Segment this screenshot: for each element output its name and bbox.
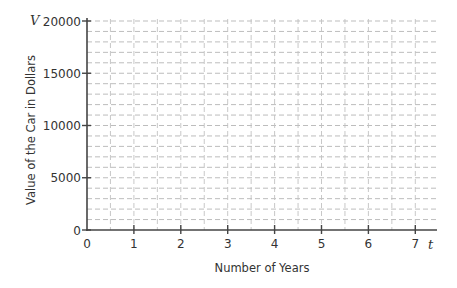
chart: 05000100001500020000 01234567 V t Number… xyxy=(0,0,457,288)
tick-marks xyxy=(82,21,415,234)
x-tick-label: 1 xyxy=(130,237,138,251)
x-variable-label: t xyxy=(428,237,434,252)
x-tick-label: 5 xyxy=(318,237,326,251)
x-axis-title: Number of Years xyxy=(215,261,310,275)
x-tick-label: 4 xyxy=(271,237,279,251)
y-tick-label: 5000 xyxy=(50,171,81,185)
y-tick-label: 0 xyxy=(73,224,81,238)
x-tick-labels: 01234567 xyxy=(83,237,419,251)
x-tick-label: 3 xyxy=(224,237,232,251)
y-tick-label: 15000 xyxy=(43,67,81,81)
y-tick-label: 20000 xyxy=(43,15,81,29)
x-tick-label: 6 xyxy=(365,237,373,251)
x-tick-label: 7 xyxy=(411,237,419,251)
y-variable-label: V xyxy=(30,13,41,28)
y-axis-title: Value of the Car in Dollars xyxy=(24,55,38,205)
x-tick-label: 0 xyxy=(83,237,91,251)
grid-lines xyxy=(87,19,437,230)
y-tick-labels: 05000100001500020000 xyxy=(43,15,81,238)
y-tick-label: 10000 xyxy=(43,119,81,133)
x-tick-label: 2 xyxy=(177,237,185,251)
